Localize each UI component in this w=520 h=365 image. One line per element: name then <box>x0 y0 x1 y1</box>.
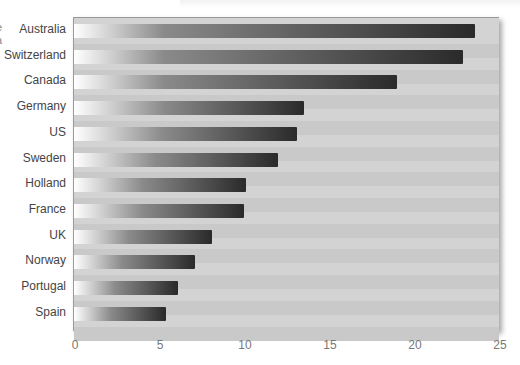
plot-area <box>73 17 499 331</box>
y-label-us: US <box>49 125 66 139</box>
x-tick-label: 25 <box>493 338 506 352</box>
bar-sweden <box>74 153 278 167</box>
x-tick-label: 5 <box>157 338 164 352</box>
bar-portugal <box>74 281 178 295</box>
bar-australia <box>74 24 475 38</box>
clipped-label-fragment: a <box>0 34 2 46</box>
y-label-portugal: Portugal <box>21 279 66 293</box>
shadow-fade <box>180 0 520 8</box>
y-label-uk: UK <box>49 228 66 242</box>
y-label-norway: Norway <box>25 253 66 267</box>
bar-us <box>74 127 297 141</box>
bar-spain <box>74 307 166 321</box>
bar-holland <box>74 178 246 192</box>
y-label-germany: Germany <box>17 99 66 113</box>
bar-germany <box>74 101 304 115</box>
bar-norway <box>74 255 195 269</box>
x-tick-label: 0 <box>72 338 79 352</box>
x-tick-label: 15 <box>323 338 336 352</box>
y-label-canada: Canada <box>24 73 66 87</box>
y-label-france: France <box>29 202 66 216</box>
x-tick-label: 20 <box>408 338 421 352</box>
y-label-australia: Australia <box>19 22 66 36</box>
clipped-label-fragment: e <box>0 21 2 33</box>
x-tick-label: 10 <box>238 338 251 352</box>
row-band <box>74 327 499 341</box>
bar-france <box>74 204 244 218</box>
y-label-switzerland: Switzerland <box>4 48 66 62</box>
bar-uk <box>74 230 212 244</box>
bar-switzerland <box>74 50 463 64</box>
y-label-spain: Spain <box>35 305 66 319</box>
y-label-sweden: Sweden <box>23 151 66 165</box>
y-label-holland: Holland <box>25 176 66 190</box>
bar-canada <box>74 75 397 89</box>
